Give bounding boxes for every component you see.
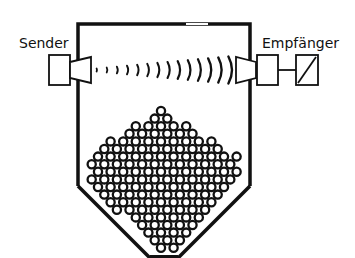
particle — [176, 206, 184, 214]
particle — [119, 153, 127, 161]
particle — [138, 175, 146, 183]
particle — [214, 191, 222, 199]
particle — [144, 122, 152, 130]
particle — [176, 130, 184, 138]
particle — [182, 198, 190, 206]
receiver-box — [257, 55, 278, 85]
particle — [125, 145, 133, 153]
particle — [207, 168, 215, 176]
receiver-horn — [236, 57, 256, 83]
particle — [233, 153, 241, 161]
particle — [182, 122, 190, 130]
particle — [144, 213, 152, 221]
particle — [125, 191, 133, 199]
particle — [170, 183, 178, 191]
particle — [144, 229, 152, 237]
sender-transducer — [49, 55, 91, 85]
particle — [170, 244, 178, 252]
particle — [188, 191, 196, 199]
particle — [113, 160, 121, 168]
particle — [195, 137, 203, 145]
particle — [100, 160, 108, 168]
particle — [107, 137, 115, 145]
particle — [107, 153, 115, 161]
particle — [176, 175, 184, 183]
particle — [182, 168, 190, 176]
particle — [188, 145, 196, 153]
particle — [214, 160, 222, 168]
particle — [157, 137, 165, 145]
particle — [132, 168, 140, 176]
particle — [157, 122, 165, 130]
particle — [100, 191, 108, 199]
particle — [113, 145, 121, 153]
particle — [195, 183, 203, 191]
particle — [188, 206, 196, 214]
particle — [125, 160, 133, 168]
particle — [163, 130, 171, 138]
particle — [151, 191, 159, 199]
particle — [138, 191, 146, 199]
particle — [157, 244, 165, 252]
particle — [188, 160, 196, 168]
particle — [138, 160, 146, 168]
sender-box — [49, 55, 70, 85]
wave-arc — [218, 57, 221, 82]
particle — [170, 137, 178, 145]
particle — [125, 175, 133, 183]
particle — [176, 191, 184, 199]
particle — [207, 198, 215, 206]
particle — [157, 183, 165, 191]
particle — [107, 183, 115, 191]
sender-horn — [70, 57, 91, 83]
particle — [132, 137, 140, 145]
particle — [188, 130, 196, 138]
particle — [132, 198, 140, 206]
particle — [100, 145, 108, 153]
particle — [195, 198, 203, 206]
particle — [132, 183, 140, 191]
wave-arc — [178, 61, 180, 79]
particle — [151, 145, 159, 153]
particle — [170, 122, 178, 130]
particle — [201, 191, 209, 199]
particle — [176, 236, 184, 244]
wave-arc — [188, 60, 191, 80]
particle — [107, 168, 115, 176]
particle — [157, 198, 165, 206]
particle — [151, 221, 159, 229]
particle — [170, 153, 178, 161]
particle — [138, 145, 146, 153]
particle — [163, 115, 171, 123]
particle — [163, 206, 171, 214]
particle — [125, 206, 133, 214]
wave-arc — [107, 68, 108, 73]
particle — [107, 198, 115, 206]
particle — [157, 213, 165, 221]
particle — [151, 236, 159, 244]
particle — [88, 175, 96, 183]
particle — [163, 175, 171, 183]
particle — [201, 206, 209, 214]
particle — [188, 221, 196, 229]
particle — [195, 168, 203, 176]
wave-arc — [137, 65, 138, 75]
particle — [233, 168, 241, 176]
particle — [201, 145, 209, 153]
particle — [207, 183, 215, 191]
particle — [144, 153, 152, 161]
particle — [88, 160, 96, 168]
particle — [163, 160, 171, 168]
particle — [170, 198, 178, 206]
particle — [119, 137, 127, 145]
particle — [132, 122, 140, 130]
particle — [144, 183, 152, 191]
particle — [214, 145, 222, 153]
particle — [170, 229, 178, 237]
particle — [182, 213, 190, 221]
particle — [201, 175, 209, 183]
particle — [163, 191, 171, 199]
bulk-material — [88, 107, 241, 252]
particle — [132, 213, 140, 221]
particle — [94, 153, 102, 161]
